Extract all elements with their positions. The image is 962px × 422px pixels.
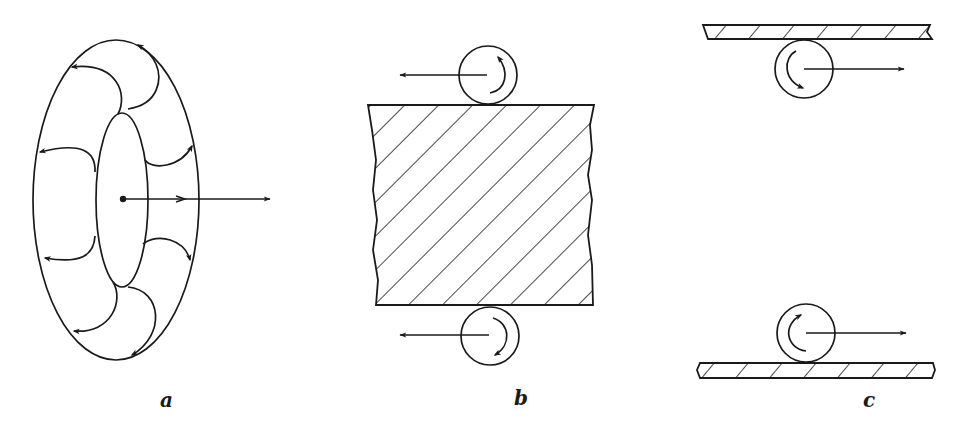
flow-line-upper-1 [128, 45, 159, 109]
rotation-arrow-counterclockwise [787, 51, 803, 88]
top-plate [703, 25, 932, 39]
panel-b-rollers-on-block [368, 46, 594, 365]
hatched-block [368, 105, 594, 305]
bottom-roller [400, 307, 519, 365]
torus-outer-edge [33, 40, 199, 360]
panel-c-rollers-on-plates [697, 25, 935, 378]
rotation-arrow-clockwise [490, 57, 505, 93]
flow-line-upper-3 [40, 148, 95, 172]
flow-line-lower-3 [74, 282, 117, 331]
flow-line-lower-1 [45, 236, 95, 260]
flow-line-lower-2 [143, 238, 190, 260]
figure-canvas [0, 0, 962, 422]
roller-circle [461, 307, 519, 365]
panel-label-b: b [514, 386, 528, 410]
flow-line-upper-2 [72, 66, 122, 114]
panel-label-c: c [863, 388, 875, 412]
rotation-arrow-clockwise [789, 315, 806, 351]
bottom-plate [697, 363, 935, 378]
rotation-arrow-counterclockwise [493, 318, 507, 355]
panel-a-vortex-ring [33, 40, 270, 360]
bottom-roller [777, 304, 906, 362]
flow-line-upper-4 [145, 146, 192, 166]
panel-label-a: a [160, 388, 173, 412]
ring-center-dot [120, 196, 126, 202]
top-roller [400, 46, 517, 104]
top-roller [775, 40, 904, 98]
